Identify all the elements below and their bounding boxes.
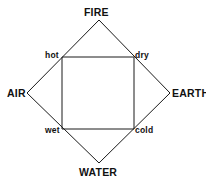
element-label-water: WATER bbox=[79, 167, 117, 178]
quality-label-cold: cold bbox=[135, 126, 153, 135]
quality-label-wet: wet bbox=[45, 126, 60, 135]
four-elements-diagram: FIRE AIR EARTH WATER hot dry wet cold bbox=[0, 0, 206, 185]
inner-square-shape bbox=[62, 57, 134, 129]
element-label-air: AIR bbox=[7, 88, 26, 99]
quality-label-hot: hot bbox=[45, 51, 59, 60]
element-label-fire: FIRE bbox=[84, 7, 109, 18]
outer-diamond-shape bbox=[27, 20, 170, 163]
element-label-earth: EARTH bbox=[172, 88, 206, 99]
quality-label-dry: dry bbox=[135, 51, 149, 60]
